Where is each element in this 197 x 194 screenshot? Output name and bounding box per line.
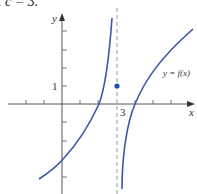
curve-label: y = f(x) bbox=[162, 68, 190, 78]
x-tick-label-3: 3 bbox=[120, 106, 126, 118]
function-graph: y x 1 3 y = f(x) bbox=[0, 0, 197, 194]
filled-point bbox=[114, 83, 119, 88]
left-branch-curve bbox=[39, 18, 112, 179]
x-axis-label: x bbox=[188, 106, 194, 118]
y-tick-label-1: 1 bbox=[52, 80, 58, 92]
right-branch-curve bbox=[122, 29, 193, 189]
x-axis bbox=[8, 100, 195, 107]
y-axis-label: y bbox=[51, 12, 57, 24]
